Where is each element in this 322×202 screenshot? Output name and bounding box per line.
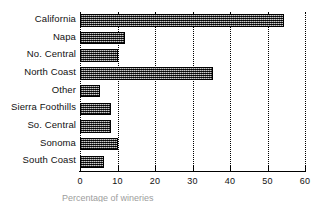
category-label: No. Central bbox=[27, 48, 76, 59]
bar-napa bbox=[80, 32, 125, 45]
category-label: Napa bbox=[53, 31, 76, 42]
caption-clip: Percentage of wineries bbox=[62, 193, 312, 202]
gridline bbox=[230, 12, 231, 172]
x-axis-tick-label: 50 bbox=[262, 176, 272, 186]
x-axis-tick-label: 0 bbox=[77, 176, 82, 186]
x-axis-tick bbox=[268, 165, 269, 172]
x-axis-tick-label: 10 bbox=[112, 176, 122, 186]
category-label: North Coast bbox=[24, 66, 76, 77]
x-axis-tick bbox=[80, 165, 81, 172]
x-axis-tick bbox=[193, 165, 194, 172]
x-axis-tick-label: 40 bbox=[225, 176, 235, 186]
chart-caption: Percentage of wineries bbox=[62, 193, 154, 202]
x-axis-tick bbox=[118, 165, 119, 172]
bar-sierra-foothills bbox=[80, 103, 111, 116]
bar-north-coast bbox=[80, 67, 213, 80]
x-axis-tick-label: 20 bbox=[150, 176, 160, 186]
category-label: Sierra Foothills bbox=[11, 101, 76, 112]
bar-sonoma bbox=[80, 138, 118, 151]
category-label: So. Central bbox=[27, 119, 76, 130]
x-axis-tick bbox=[305, 165, 306, 172]
x-axis-tick-label: 60 bbox=[300, 176, 310, 186]
category-label: Other bbox=[52, 84, 76, 95]
category-label: California bbox=[35, 13, 76, 24]
gridline bbox=[268, 12, 269, 172]
bar-no-central bbox=[80, 49, 118, 62]
bar-south-coast bbox=[80, 156, 104, 169]
x-axis-tick-label: 30 bbox=[187, 176, 197, 186]
gridline bbox=[155, 12, 156, 172]
gridline bbox=[193, 12, 194, 172]
bar-california bbox=[80, 14, 284, 27]
x-axis-tick bbox=[230, 165, 231, 172]
x-axis-tick bbox=[155, 165, 156, 172]
bar-so-central bbox=[80, 120, 111, 133]
bar-chart: California Napa No. Central North Coast … bbox=[0, 0, 322, 202]
plot-area bbox=[80, 12, 305, 172]
category-label: Sonoma bbox=[40, 137, 76, 148]
category-label: South Coast bbox=[23, 154, 76, 165]
bar-other bbox=[80, 85, 100, 98]
gridline bbox=[305, 12, 306, 172]
